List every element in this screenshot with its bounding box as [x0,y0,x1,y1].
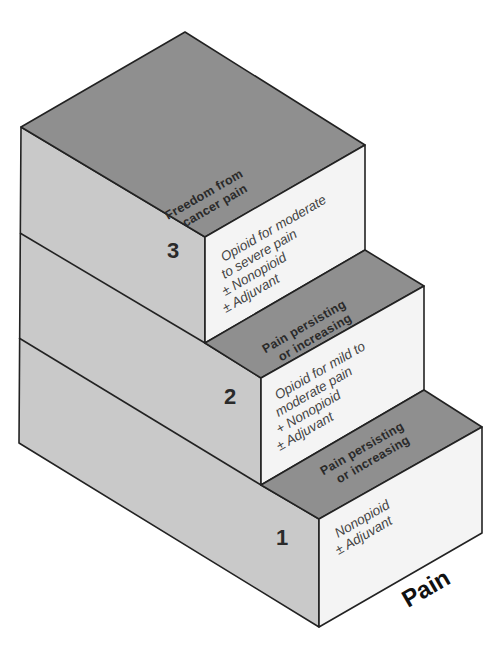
step-2-number: 2 [224,384,236,409]
step-1-number: 1 [276,525,288,550]
analgesic-ladder-diagram: Freedom from cancer pain Opioid for mode… [0,0,501,645]
step-3-number: 3 [167,238,179,263]
